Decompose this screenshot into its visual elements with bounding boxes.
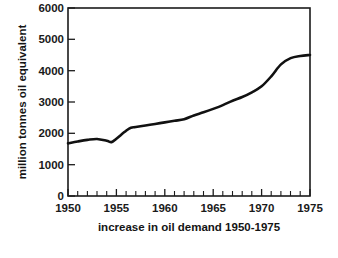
oil-demand-line-chart: 0 1000 2000 3000 4000 5000 6000	[0, 0, 338, 258]
y-tick-label-5000: 5000	[38, 33, 64, 45]
y-tick-label-2000: 2000	[38, 127, 64, 139]
x-tick-label-1975: 1975	[297, 202, 323, 214]
y-tick-label-0: 0	[58, 190, 64, 202]
y-tick-label-3000: 3000	[38, 96, 64, 108]
y-tick-label-6000: 6000	[38, 2, 64, 14]
x-tick-label-1950: 1950	[55, 202, 81, 214]
y-tick-label-1000: 1000	[38, 159, 64, 171]
chart-figure: 0 1000 2000 3000 4000 5000 6000	[0, 0, 338, 258]
x-tick-label-1960: 1960	[152, 202, 178, 214]
y-axis-title: million tonnes oil equivalent	[16, 25, 28, 180]
x-axis-title: increase in oil demand 1950-1975	[98, 221, 281, 233]
x-tick-label-1965: 1965	[200, 202, 226, 214]
x-tick-label-1970: 1970	[249, 202, 275, 214]
y-tick-label-4000: 4000	[38, 65, 64, 77]
x-tick-label-1955: 1955	[104, 202, 130, 214]
